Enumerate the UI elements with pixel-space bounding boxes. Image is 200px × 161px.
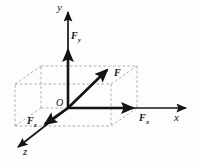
box-edge-depth-top-left [15,66,41,84]
origin-label: O [56,98,63,108]
force-component-z-label-subscript: z [34,121,37,128]
force-component-x-label-subscript: x [146,118,149,125]
force-component-y-label-subscript: y [78,36,81,43]
resultant-force-label-base: F [114,67,121,78]
figure-canvas [0,0,200,161]
resultant-force-vector [68,70,107,108]
force-vectors [45,50,133,124]
resultant-force-label: F [114,68,121,78]
force-component-z-vector [45,108,68,124]
coordinate-axes [18,12,186,147]
force-component-x-label-base: F [139,112,146,123]
x-axis-label: x [174,112,179,123]
force-component-y-label: Fy [71,31,81,41]
force-component-z-label: Fz [27,116,36,126]
force-component-x-label: Fx [139,113,149,123]
z-axis-label: z [23,146,27,157]
box-edge-depth-bottom-right [111,108,137,126]
force-component-z-label-base: F [27,115,34,126]
force-component-y-label-base: F [71,30,78,41]
force-vector-figure: y x z O Fy F Fx Fz [0,0,200,161]
y-axis-label: y [57,2,62,13]
